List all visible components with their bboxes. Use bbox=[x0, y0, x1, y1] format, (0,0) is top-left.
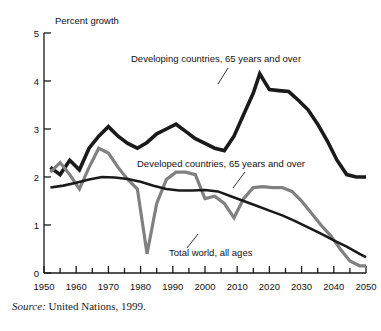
y-tick-label: 0 bbox=[34, 268, 39, 279]
x-tick-label: 2000 bbox=[194, 281, 215, 292]
y-tick-label: 1 bbox=[34, 220, 39, 231]
x-tick-label: 1980 bbox=[130, 281, 151, 292]
y-axis-tick-labels: 012345 bbox=[34, 28, 39, 279]
x-tick-label: 1970 bbox=[98, 281, 119, 292]
x-tick-label: 2010 bbox=[227, 281, 248, 292]
chart-series-lines: Developing countries, 65 years and overD… bbox=[50, 74, 366, 266]
chart-axes bbox=[44, 33, 366, 273]
x-tick-label: 1990 bbox=[162, 281, 183, 292]
x-tick-label: 2050 bbox=[355, 281, 376, 292]
y-tick-label: 5 bbox=[34, 28, 39, 39]
source-text: United Nations, 1999. bbox=[49, 300, 146, 312]
x-tick-label: 1950 bbox=[33, 281, 54, 292]
x-tick-label: 2020 bbox=[259, 281, 280, 292]
y-axis-title: Percent growth bbox=[55, 15, 119, 26]
x-tick-label: 2030 bbox=[291, 281, 312, 292]
y-tick-label: 4 bbox=[34, 76, 39, 87]
x-axis-ticks bbox=[44, 266, 366, 273]
developed-label-leader-line bbox=[233, 172, 245, 188]
total-world-label-leader-line bbox=[187, 234, 198, 248]
source-prefix: Source: bbox=[12, 300, 46, 312]
total-world-label: Total world, all ages bbox=[169, 247, 253, 258]
population-growth-line-chart: 012345 195019601970198019902000201020202… bbox=[0, 0, 381, 331]
developing-label: Developing countries, 65 years and over bbox=[131, 53, 301, 64]
developing-label-leader-line bbox=[218, 68, 228, 84]
series-line-2: Total world, all ages bbox=[50, 177, 366, 257]
chart-annotations: Developing countries, 65 years and overD… bbox=[131, 53, 305, 258]
x-tick-label: 1960 bbox=[66, 281, 87, 292]
y-axis-ticks bbox=[44, 33, 51, 273]
developed-label: Developed countries, 65 years and over bbox=[137, 158, 305, 169]
x-axis-tick-labels: 1950196019701980199020002010202020302040… bbox=[33, 281, 376, 292]
chart-page: 012345 195019601970198019902000201020202… bbox=[0, 0, 381, 331]
y-tick-label: 3 bbox=[34, 124, 39, 135]
source-note: Source: United Nations, 1999. bbox=[12, 300, 146, 312]
x-tick-label: 2040 bbox=[323, 281, 344, 292]
y-tick-label: 2 bbox=[34, 172, 39, 183]
